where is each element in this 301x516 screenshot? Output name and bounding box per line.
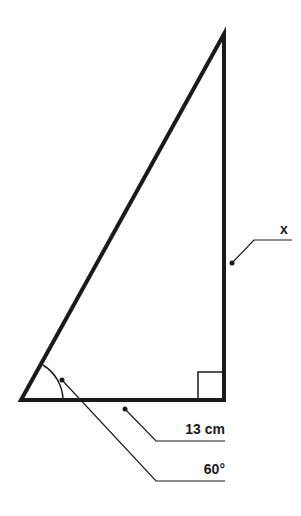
triangle-diagram: x 13 cm 60° <box>0 0 301 516</box>
right-angle-marker <box>198 372 224 400</box>
right-triangle <box>21 34 224 400</box>
angle-arc <box>43 365 63 400</box>
adjacent-label: 13 cm <box>185 421 225 437</box>
x-label: x <box>280 221 288 237</box>
angle-label: 60° <box>204 461 225 477</box>
x-leader-line <box>232 240 292 263</box>
